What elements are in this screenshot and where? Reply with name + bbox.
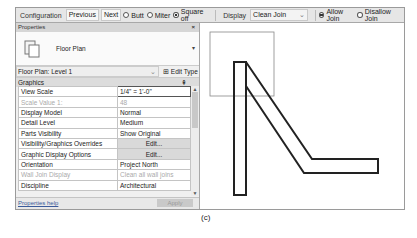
properties-help-link[interactable]: Properties help bbox=[18, 200, 58, 206]
dropdown-arrow-icon: ▾ bbox=[192, 44, 195, 51]
drawing-canvas[interactable] bbox=[200, 23, 404, 209]
orientation-value[interactable]: Project North bbox=[118, 159, 191, 169]
properties-table: View Scale1/4" = 1'-0" Scale Value 1:48 … bbox=[18, 86, 191, 191]
radio-icon bbox=[357, 12, 363, 18]
table-row: Detail LevelMedium bbox=[19, 118, 191, 128]
radio-selected-icon bbox=[173, 12, 179, 18]
wall-drawing bbox=[200, 23, 404, 209]
wall-vertical bbox=[234, 62, 246, 195]
radio-square-off[interactable]: Square off bbox=[173, 8, 209, 22]
table-row: OrientationProject North bbox=[19, 159, 191, 169]
type-name: Floor Plan bbox=[56, 45, 86, 52]
floor-plan-icon bbox=[22, 39, 42, 59]
type-selector[interactable]: Floor Plan ▾ bbox=[16, 32, 199, 66]
chevron-down-icon: ⌄ bbox=[299, 10, 305, 20]
graphic-display-edit-button[interactable]: Edit... bbox=[118, 149, 191, 159]
view-scale-input[interactable]: 1/4" = 1'-0" bbox=[118, 87, 191, 97]
scroll-down-icon[interactable]: ▼ bbox=[191, 190, 199, 196]
selection-box bbox=[210, 32, 274, 96]
table-row: DisciplineArchitectural bbox=[19, 180, 191, 190]
radio-icon bbox=[147, 12, 153, 18]
display-select[interactable]: Clean Join⌄ bbox=[250, 9, 308, 21]
display-label: Display bbox=[219, 12, 250, 19]
wall-diagonal bbox=[246, 62, 378, 173]
discipline-value[interactable]: Architectural bbox=[118, 180, 191, 190]
options-bar: Configuration Previous Next Butt Miter S… bbox=[16, 8, 404, 23]
edit-type-icon: ⊞ bbox=[163, 68, 171, 76]
properties-title-bar: Properties × bbox=[16, 23, 199, 32]
revit-window: Configuration Previous Next Butt Miter S… bbox=[15, 7, 405, 210]
radio-miter[interactable]: Miter bbox=[147, 12, 171, 19]
table-row: View Scale1/4" = 1'-0" bbox=[19, 87, 191, 97]
properties-footer: Properties help Apply bbox=[16, 197, 199, 209]
table-row: Parts VisibilityShow Original bbox=[19, 128, 191, 138]
table-row: Graphic Display OptionsEdit... bbox=[19, 149, 191, 159]
radio-allow-join[interactable]: Allow Join bbox=[319, 8, 354, 22]
radio-selected-icon bbox=[319, 12, 325, 18]
parts-visibility-value[interactable]: Show Original bbox=[118, 128, 191, 138]
vg-overrides-edit-button[interactable]: Edit... bbox=[118, 138, 191, 148]
edit-type-button[interactable]: ⊞ Edit Type bbox=[163, 68, 198, 76]
radio-icon bbox=[123, 12, 129, 18]
chevron-down-icon: ⌄ bbox=[150, 67, 156, 76]
divider bbox=[215, 10, 216, 21]
properties-scrollbar[interactable]: ▲ ▼ bbox=[191, 86, 199, 196]
figure-caption: (c) bbox=[201, 213, 210, 222]
detail-level-value[interactable]: Medium bbox=[118, 118, 191, 128]
instance-selector[interactable]: Floor Plan: Level 1⌄ bbox=[16, 66, 159, 77]
table-row: Scale Value 1:48 bbox=[19, 97, 191, 107]
properties-palette: Properties × Floor Plan ▾ Floor Plan: Le… bbox=[16, 23, 200, 209]
previous-button[interactable]: Previous bbox=[66, 9, 99, 21]
next-button[interactable]: Next bbox=[101, 9, 121, 21]
table-row: Wall Join DisplayClean all wall joins bbox=[19, 170, 191, 180]
table-row: Visibility/Graphics OverridesEdit... bbox=[19, 138, 191, 148]
close-icon[interactable]: × bbox=[191, 23, 195, 32]
radio-butt[interactable]: Butt bbox=[123, 12, 143, 19]
apply-button[interactable]: Apply bbox=[157, 199, 193, 207]
table-row: Display ModelNormal bbox=[19, 107, 191, 117]
radio-disallow-join[interactable]: Disallow Join bbox=[357, 8, 401, 22]
instance-row: Floor Plan: Level 1⌄ ⊞ Edit Type bbox=[16, 66, 199, 78]
display-model-value[interactable]: Normal bbox=[118, 107, 191, 117]
scrollbar-thumb[interactable] bbox=[192, 92, 198, 128]
divider bbox=[315, 10, 316, 21]
configuration-label: Configuration bbox=[16, 12, 66, 19]
